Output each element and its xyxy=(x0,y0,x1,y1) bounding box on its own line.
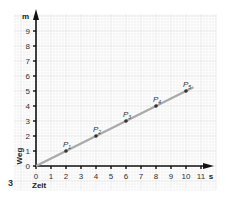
y-tick-label: 9 xyxy=(26,27,31,36)
x-tick-label: 7 xyxy=(139,172,144,181)
x-tick-label: 11 xyxy=(197,172,206,181)
point-label: P4 xyxy=(153,95,161,105)
distance-time-chart: 012345678901234567891011msZeitWegP1P2P3P… xyxy=(0,0,226,201)
x-tick-label: 0 xyxy=(34,172,39,181)
x-unit-label: s xyxy=(209,172,214,181)
y-tick-label: 4 xyxy=(26,102,31,111)
x-tick-label: 4 xyxy=(94,172,99,181)
x-tick-label: 2 xyxy=(64,172,69,181)
data-point xyxy=(154,104,158,108)
y-tick-label: 5 xyxy=(26,87,31,96)
y-tick-label: 0 xyxy=(26,162,31,171)
y-tick-label: 8 xyxy=(26,42,31,51)
y-tick-label: 7 xyxy=(26,57,31,66)
y-tick-label: 6 xyxy=(26,72,31,81)
data-point xyxy=(184,89,188,93)
point-label: P5 xyxy=(183,80,191,90)
figure-number: 3 xyxy=(8,178,13,188)
x-tick-label: 5 xyxy=(109,172,114,181)
point-label: P2 xyxy=(93,125,101,135)
x-tick-label: 6 xyxy=(124,172,129,181)
x-tick-label: 10 xyxy=(182,172,191,181)
y-axis-title: Weg xyxy=(15,148,24,165)
data-point xyxy=(124,119,128,123)
x-tick-label: 1 xyxy=(49,172,54,181)
x-axis-title: Zeit xyxy=(32,181,47,190)
x-tick-label: 8 xyxy=(154,172,159,181)
point-label: P3 xyxy=(123,110,131,120)
y-tick-label: 3 xyxy=(26,117,31,126)
data-point xyxy=(64,149,68,153)
data-point xyxy=(94,134,98,138)
y-unit-label: m xyxy=(22,12,29,21)
x-axis-arrow-icon xyxy=(203,163,214,169)
x-tick-label: 9 xyxy=(169,172,174,181)
y-tick-label: 2 xyxy=(26,132,31,141)
x-tick-label: 3 xyxy=(79,172,84,181)
y-tick-label: 1 xyxy=(26,147,31,156)
y-axis-arrow-icon xyxy=(33,9,39,20)
point-label: P1 xyxy=(63,140,71,150)
